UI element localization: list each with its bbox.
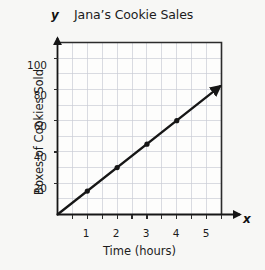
plot-area [0, 0, 265, 270]
cookie-sales-chart: Jana’s Cookie Sales y x Boxes of Cookies… [0, 0, 265, 270]
plot-background [58, 43, 222, 215]
